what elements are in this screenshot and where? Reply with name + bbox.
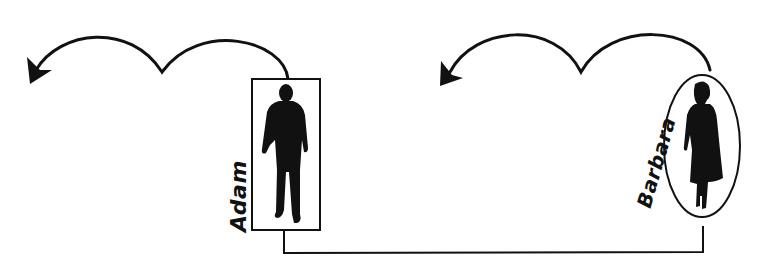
barbara-node — [664, 75, 740, 217]
arrowhead-icon — [27, 57, 52, 84]
adam-node — [252, 79, 320, 230]
barbara-curved-arrow — [440, 35, 710, 86]
arrowhead-icon — [440, 61, 463, 86]
adam-barbara-connector — [284, 226, 703, 253]
adam-label: Adam — [226, 160, 251, 232]
adam-curved-arrow — [27, 37, 288, 84]
